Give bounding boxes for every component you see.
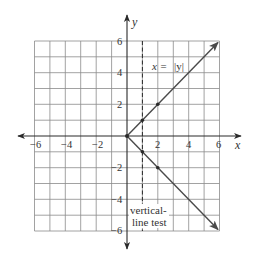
y-tick-4: 4 xyxy=(117,67,123,78)
point-2-neg2 xyxy=(156,166,160,170)
point-1-neg1 xyxy=(141,150,145,154)
point-origin xyxy=(125,134,129,138)
y-tick-neg2: −2 xyxy=(111,162,122,173)
y-tick-neg6: −6 xyxy=(111,225,122,236)
relation-label: x = |y| xyxy=(151,60,184,72)
x-tick-neg2: −2 xyxy=(92,139,103,150)
x-tick-neg4: −4 xyxy=(61,139,73,150)
graph-x-equals-abs-y: −6 −4 −2 2 4 6 6 4 2 −2 −4 −6 x y x = |y… xyxy=(0,0,256,264)
point-2-2 xyxy=(156,103,160,107)
x-axis-label: x xyxy=(234,138,241,152)
y-tick-2: 2 xyxy=(117,99,122,110)
vline-label-line1: vertical- xyxy=(130,204,167,216)
x-tick-neg6: −6 xyxy=(30,139,41,150)
vertical-line-test-label: vertical- line test xyxy=(129,204,169,228)
x-tick-2: 2 xyxy=(155,139,160,150)
relation-lhs: x = xyxy=(151,60,167,72)
relation-rhs: |y| xyxy=(174,60,184,72)
x-tick-6: 6 xyxy=(216,139,221,150)
x-tick-4: 4 xyxy=(186,139,192,150)
y-tick-neg4: −4 xyxy=(111,194,123,205)
x-tick-labels: −6 −4 −2 2 4 6 xyxy=(30,139,221,150)
vline-label-line2: line test xyxy=(132,216,167,228)
y-tick-6: 6 xyxy=(117,36,122,47)
point-1-1 xyxy=(141,118,145,122)
y-axis-label: y xyxy=(131,15,138,29)
